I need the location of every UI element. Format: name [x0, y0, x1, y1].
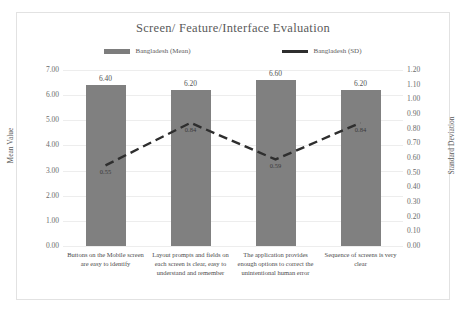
x-axis-category-label: Layout prompts and fields on each screen… — [148, 251, 233, 277]
chart-container: Screen/ Feature/Interface Evaluation Ban… — [16, 12, 450, 300]
y-axis-right-tick: 0.20 — [407, 212, 441, 221]
y-axis-left-tick: 3.00 — [25, 166, 59, 175]
x-axis-category-label: Sequence of screens is very clear — [318, 251, 403, 277]
y-axis-left-title: Mean Value — [6, 128, 15, 164]
y-axis-left-tick: 0.00 — [25, 241, 59, 250]
sd-line-series — [63, 70, 403, 246]
x-axis-category-labels: Buttons on the Mobile screen are easy to… — [63, 251, 403, 277]
plot-area: 6.406.206.606.20 0.550.840.590.84 — [63, 70, 403, 246]
legend-item-sd[interactable]: Bangladesh (SD) — [282, 47, 361, 55]
legend-label-mean: Bangladesh (Mean) — [135, 47, 190, 55]
chart-legend: Bangladesh (Mean) Bangladesh (SD) — [17, 47, 449, 55]
y-axis-right-tick: 0.10 — [407, 226, 441, 235]
sd-value-label: 0.84 — [341, 126, 381, 133]
y-axis-right-title: Standard Deviation — [447, 116, 456, 174]
y-axis-left-tick: 4.00 — [25, 140, 59, 149]
y-axis-left-tick: 1.00 — [25, 216, 59, 225]
y-axis-right-tick: 1.20 — [407, 65, 441, 74]
y-axis-right-tick: 0.60 — [407, 153, 441, 162]
sd-line-path — [106, 123, 361, 166]
sd-value-label: 0.84 — [171, 126, 211, 133]
y-axis-right-tick: 0.00 — [407, 241, 441, 250]
y-axis-left-tick: 7.00 — [25, 65, 59, 74]
y-axis-right-tick: 0.40 — [407, 182, 441, 191]
y-axis-left-tick: 6.00 — [25, 90, 59, 99]
bar-swatch-icon — [104, 49, 130, 54]
x-axis-category-label: The application provides enough options … — [233, 251, 318, 277]
y-axis-right-tick: 0.90 — [407, 109, 441, 118]
y-axis-right-tick: 0.50 — [407, 168, 441, 177]
legend-label-sd: Bangladesh (SD) — [313, 47, 361, 55]
sd-value-label: 0.59 — [256, 162, 296, 169]
y-axis-right-tick: 1.00 — [407, 94, 441, 103]
y-axis-right-tick: 0.80 — [407, 124, 441, 133]
x-axis-category-label: Buttons on the Mobile screen are easy to… — [63, 251, 148, 277]
y-axis-right-tick: 0.30 — [407, 197, 441, 206]
y-axis-right-tick: 0.70 — [407, 138, 441, 147]
line-swatch-icon — [282, 50, 308, 53]
y-axis-right-tick: 1.10 — [407, 80, 441, 89]
chart-title: Screen/ Feature/Interface Evaluation — [17, 21, 449, 36]
y-axis-left-tick: 2.00 — [25, 191, 59, 200]
sd-value-label: 0.55 — [86, 168, 126, 175]
legend-item-mean[interactable]: Bangladesh (Mean) — [104, 47, 190, 55]
gridline — [63, 246, 403, 247]
y-axis-left-tick: 5.00 — [25, 115, 59, 124]
